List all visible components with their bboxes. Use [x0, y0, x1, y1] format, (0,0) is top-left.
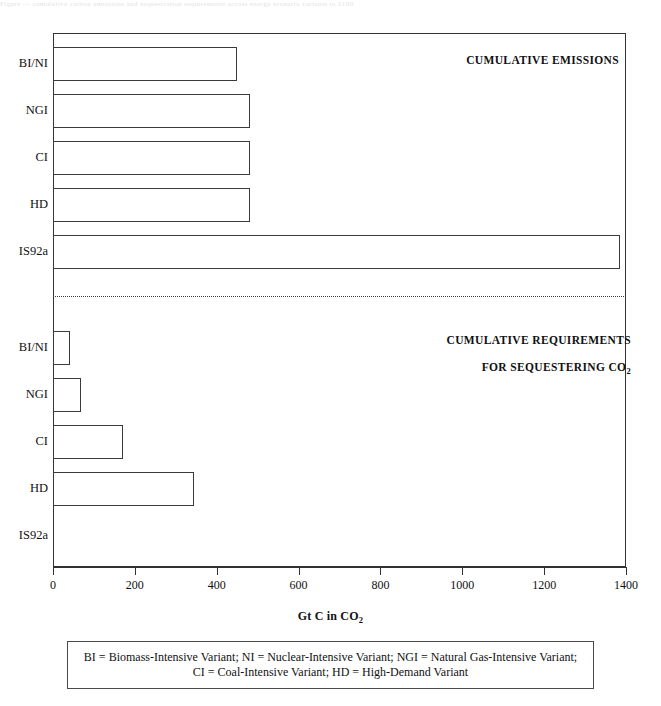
category-label-bi-ni: BI/NI [2, 56, 48, 71]
category-label-ngi: NGI [2, 103, 48, 118]
x-tick-1200 [544, 567, 545, 575]
category-label-bi-ni: BI/NI [2, 340, 48, 355]
panel-title-sequestering-line2: FOR SEQUESTERING CO [482, 361, 627, 373]
legend-note-text: BI = Biomass-Intensive Variant; NI = Nuc… [78, 650, 583, 680]
x-tick-label-600: 600 [274, 578, 324, 593]
bar-emissions-bi-ni [53, 47, 237, 81]
category-label-hd: HD [2, 197, 48, 212]
bar-emissions-is92a [53, 235, 620, 269]
x-tick-label-1000: 1000 [437, 578, 487, 593]
panel-title-sequestering-line1: CUMULATIVE REQUIREMENTS [446, 334, 631, 346]
bar-requirements-hd [53, 472, 194, 506]
x-tick-label-200: 200 [110, 578, 160, 593]
x-tick-label-400: 400 [192, 578, 242, 593]
x-axis-title: Gt C in CO2 [0, 609, 661, 625]
bar-requirements-bi-ni [53, 331, 70, 365]
co2-subscript: 2 [626, 366, 631, 376]
category-label-hd: HD [2, 481, 48, 496]
bar-requirements-ngi [53, 378, 81, 412]
x-tick-1400 [626, 567, 627, 575]
x-tick-label-1400: 1400 [601, 578, 651, 593]
x-tick-600 [299, 567, 300, 575]
x-axis-title-subscript: 2 [359, 615, 363, 625]
x-tick-400 [217, 567, 218, 575]
x-tick-1000 [462, 567, 463, 575]
category-label-is92a: IS92a [2, 244, 48, 259]
bar-emissions-ngi [53, 94, 250, 128]
x-tick-800 [380, 567, 381, 575]
figure-container: CUMULATIVE EMISSIONS CUMULATIVE REQUIREM… [0, 0, 661, 706]
x-axis-title-text: Gt C in CO [298, 609, 359, 623]
panel-title-emissions-text: CUMULATIVE EMISSIONS [466, 54, 619, 66]
x-tick-label-800: 800 [355, 578, 405, 593]
x-tick-label-1200: 1200 [519, 578, 569, 593]
x-tick-label-0: 0 [28, 578, 78, 593]
panel-title-emissions: CUMULATIVE EMISSIONS [466, 40, 619, 67]
legend-note-box: BI = Biomass-Intensive Variant; NI = Nuc… [67, 641, 594, 689]
x-tick-200 [135, 567, 136, 575]
bar-emissions-ci [53, 141, 250, 175]
x-axis-line [53, 567, 626, 568]
category-label-is92a: IS92a [2, 528, 48, 543]
panel-title-sequestering: CUMULATIVE REQUIREMENTS FOR SEQUESTERING… [446, 320, 631, 378]
bar-emissions-hd [53, 188, 250, 222]
panel-divider [53, 296, 626, 297]
x-tick-0 [53, 567, 54, 575]
bar-requirements-ci [53, 425, 123, 459]
category-label-ci: CI [2, 150, 48, 165]
category-label-ngi: NGI [2, 387, 48, 402]
category-label-ci: CI [2, 434, 48, 449]
